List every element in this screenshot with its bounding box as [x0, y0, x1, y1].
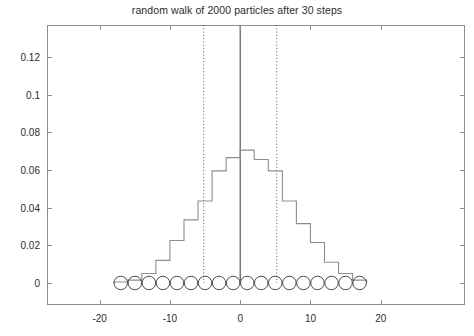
y-tick-mark — [47, 132, 52, 133]
x-tick-mark — [100, 300, 101, 305]
y-tick-mark — [47, 57, 52, 58]
x-tick-mark — [170, 25, 171, 30]
y-tick-label: 0 — [34, 277, 40, 288]
x-tick-mark — [240, 300, 241, 305]
x-tick-mark — [170, 300, 171, 305]
chart-title: random walk of 2000 particles after 30 s… — [0, 4, 474, 16]
y-tick-label: 0.12 — [21, 51, 40, 62]
plot-area — [47, 25, 465, 305]
x-tick-mark — [310, 300, 311, 305]
chart-canvas — [47, 25, 465, 305]
particle-marker — [212, 276, 225, 289]
y-tick-mark — [460, 170, 465, 171]
chart-figure: random walk of 2000 particles after 30 s… — [0, 0, 474, 336]
particle-marker — [114, 276, 127, 289]
particle-marker — [142, 276, 155, 289]
y-tick-mark — [460, 57, 465, 58]
y-tick-label: 0.04 — [21, 202, 40, 213]
y-tick-mark — [47, 95, 52, 96]
particle-marker — [269, 276, 282, 289]
y-tick-mark — [460, 245, 465, 246]
x-tick-label: -10 — [163, 313, 177, 324]
particle-marker — [184, 276, 197, 289]
x-tick-label: 20 — [375, 313, 386, 324]
particle-marker — [170, 276, 183, 289]
y-tick-mark — [47, 170, 52, 171]
y-tick-mark — [460, 208, 465, 209]
y-tick-mark — [47, 245, 52, 246]
x-tick-mark — [381, 300, 382, 305]
x-tick-label: 0 — [237, 313, 243, 324]
particle-marker — [339, 276, 352, 289]
y-tick-mark — [460, 283, 465, 284]
x-tick-mark — [100, 25, 101, 30]
y-tick-mark — [47, 283, 52, 284]
particle-marker — [283, 276, 296, 289]
particle-marker — [226, 276, 239, 289]
x-tick-mark — [240, 25, 241, 30]
particle-marker — [311, 276, 324, 289]
y-tick-label: 0.1 — [26, 89, 40, 100]
x-tick-label: -20 — [92, 313, 106, 324]
particle-marker — [255, 276, 268, 289]
particle-marker — [156, 276, 169, 289]
particle-marker — [353, 276, 366, 289]
x-tick-mark — [310, 25, 311, 30]
particle-marker — [325, 276, 338, 289]
particle-marker — [297, 276, 310, 289]
y-tick-mark — [460, 132, 465, 133]
x-tick-mark — [381, 25, 382, 30]
x-tick-label: 10 — [305, 313, 316, 324]
y-tick-label: 0.06 — [21, 164, 40, 175]
y-tick-mark — [460, 95, 465, 96]
y-tick-label: 0.08 — [21, 127, 40, 138]
particle-marker — [198, 276, 211, 289]
particle-marker — [240, 276, 253, 289]
y-tick-mark — [47, 208, 52, 209]
y-tick-label: 0.02 — [21, 240, 40, 251]
particle-marker — [128, 276, 141, 289]
